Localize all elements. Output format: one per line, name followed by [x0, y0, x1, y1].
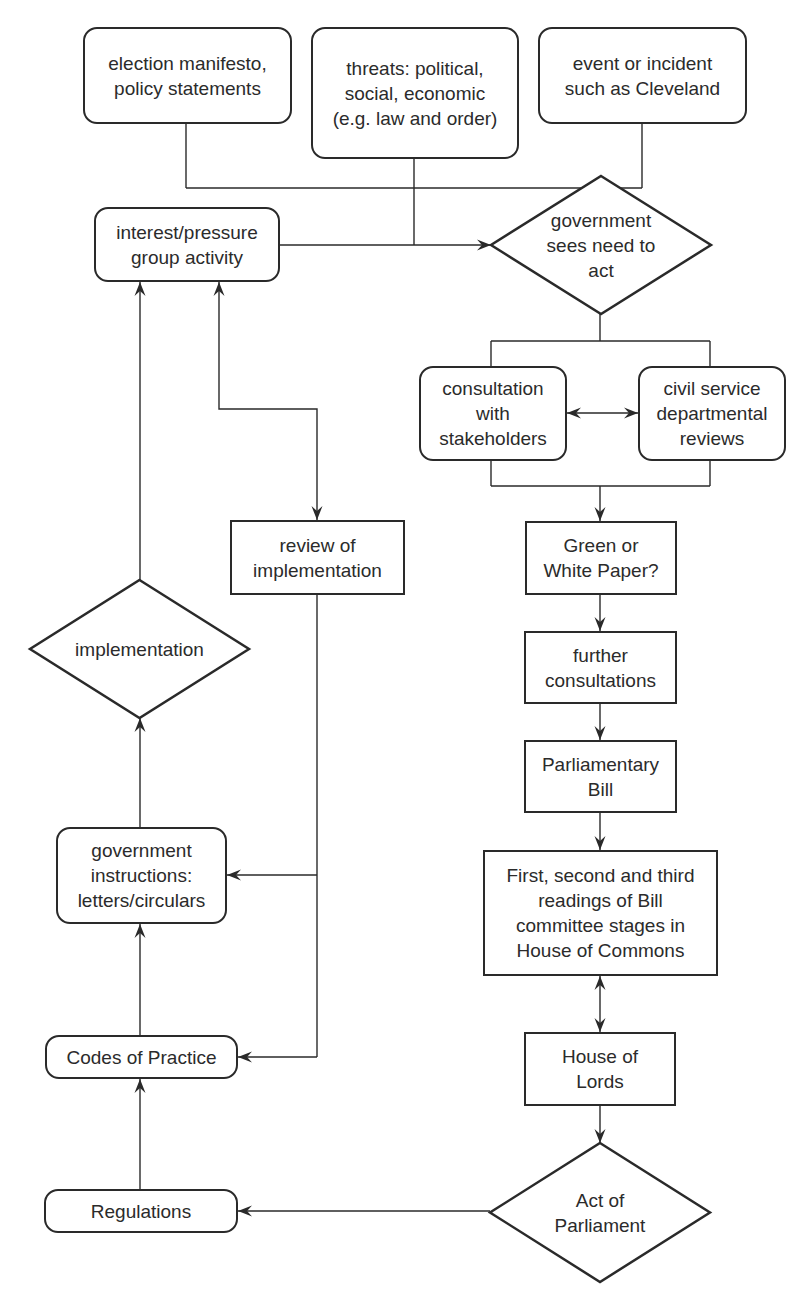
- node-readings-commons: First, second and third readings of Bill…: [483, 850, 718, 976]
- node-further-consultations: further consultations: [524, 631, 677, 704]
- node-label: Parliamentary Bill: [542, 752, 659, 802]
- node-interest-pressure-group: interest/pressure group activity: [94, 207, 280, 282]
- node-codes-of-practice: Codes of Practice: [45, 1035, 238, 1079]
- node-house-of-lords: House of Lords: [524, 1032, 676, 1106]
- node-government-sees-need: government sees need to act: [491, 176, 711, 314]
- node-label: First, second and third readings of Bill…: [507, 863, 695, 963]
- node-event-incident: event or incident such as Cleveland: [538, 27, 747, 124]
- node-label: Codes of Practice: [67, 1045, 217, 1070]
- arrow-interest-review: [219, 282, 317, 520]
- node-government-instructions: government instructions: letters/circula…: [56, 827, 227, 924]
- node-label: government sees need to act: [547, 208, 656, 283]
- node-threats: threats: political, social, economic (e.…: [311, 27, 519, 159]
- node-label: government instructions: letters/circula…: [78, 838, 206, 913]
- node-review-of-implementation: review of implementation: [230, 520, 405, 595]
- node-label: civil service departmental reviews: [657, 376, 768, 451]
- diamond-shapes: [30, 176, 711, 1282]
- node-label: threats: political, social, economic (e.…: [333, 56, 498, 131]
- node-label: House of Lords: [562, 1044, 638, 1094]
- node-parliamentary-bill: Parliamentary Bill: [524, 740, 677, 813]
- node-label: election manifesto, policy statements: [108, 51, 266, 101]
- node-label: Green or White Paper?: [543, 533, 658, 583]
- node-label: event or incident such as Cleveland: [565, 51, 720, 101]
- node-label: interest/pressure group activity: [116, 220, 258, 270]
- node-act-of-parliament: Act of Parliament: [490, 1143, 710, 1282]
- node-label: Regulations: [91, 1199, 191, 1224]
- node-consultation-stakeholders: consultation with stakeholders: [419, 366, 567, 461]
- node-label: consultation with stakeholders: [439, 376, 547, 451]
- node-civil-service-reviews: civil service departmental reviews: [638, 366, 786, 461]
- node-label: implementation: [75, 637, 204, 662]
- node-election-manifesto: election manifesto, policy statements: [83, 27, 292, 124]
- node-regulations: Regulations: [44, 1189, 238, 1233]
- node-label: further consultations: [545, 643, 656, 693]
- node-label: Act of Parliament: [555, 1188, 646, 1238]
- node-green-white-paper: Green or White Paper?: [525, 521, 677, 595]
- node-implementation: implementation: [30, 580, 249, 718]
- node-label: review of implementation: [253, 533, 382, 583]
